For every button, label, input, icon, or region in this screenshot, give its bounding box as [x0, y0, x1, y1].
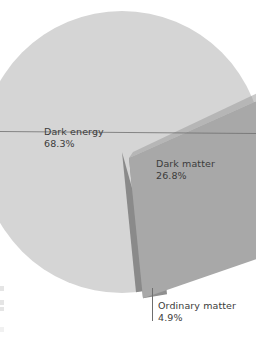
slice-label-dark-energy-value: 68.3% — [44, 138, 104, 150]
slice-label-ordinary-matter: Ordinary matter 4.9% — [158, 300, 236, 323]
edge-artifact — [0, 307, 4, 311]
edge-artifact — [0, 300, 4, 305]
edge-artifact — [0, 327, 4, 332]
slice-label-dark-matter-name: Dark matter — [156, 158, 215, 170]
slice-label-dark-energy: Dark energy 68.3% — [44, 126, 104, 149]
slice-label-ordinary-matter-value: 4.9% — [158, 312, 236, 324]
slice-label-dark-matter: Dark matter 26.8% — [156, 158, 215, 181]
slice-label-dark-matter-value: 26.8% — [156, 170, 215, 182]
pie-chart-graphic — [0, 0, 256, 348]
pie-chart: Dark energy 68.3% Dark matter 26.8% Ordi… — [0, 0, 256, 348]
slice-label-ordinary-matter-name: Ordinary matter — [158, 300, 236, 312]
edge-artifact — [0, 286, 4, 291]
slice-label-dark-energy-name: Dark energy — [44, 126, 104, 138]
